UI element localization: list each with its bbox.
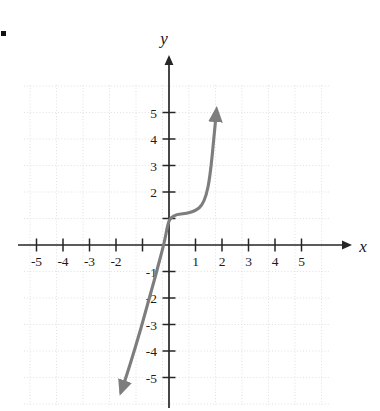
x-axis bbox=[18, 239, 350, 252]
y-tick-label: -5 bbox=[146, 371, 157, 386]
y-tick-label: -4 bbox=[146, 344, 157, 359]
x-axis-label: x bbox=[358, 237, 367, 256]
y-tick-label: 5 bbox=[150, 106, 157, 121]
x-tick-label: -3 bbox=[84, 254, 95, 269]
x-tick-label: -2 bbox=[110, 254, 121, 269]
x-tick-label: 2 bbox=[219, 254, 226, 269]
x-tick-label: -4 bbox=[57, 254, 68, 269]
y-tick-label: 2 bbox=[150, 185, 157, 200]
x-tick-label: 1 bbox=[192, 254, 199, 269]
y-axis bbox=[163, 57, 176, 408]
x-tick-labels: -5 -4 -3 -2 1 2 3 4 5 bbox=[31, 254, 305, 269]
cubic-graph-figure: -5 -4 -3 -2 1 2 3 4 5 5 4 3 2 -1 -2 -3 -… bbox=[0, 0, 380, 411]
x-tick-label: 4 bbox=[272, 254, 279, 269]
y-tick-label: 3 bbox=[150, 159, 157, 174]
x-tick-label: 3 bbox=[245, 254, 252, 269]
y-axis-label: y bbox=[158, 29, 168, 48]
y-tick-label: 4 bbox=[150, 132, 157, 147]
y-tick-label: -3 bbox=[146, 318, 157, 333]
x-tick-label: -5 bbox=[31, 254, 42, 269]
x-tick-label: 5 bbox=[298, 254, 305, 269]
